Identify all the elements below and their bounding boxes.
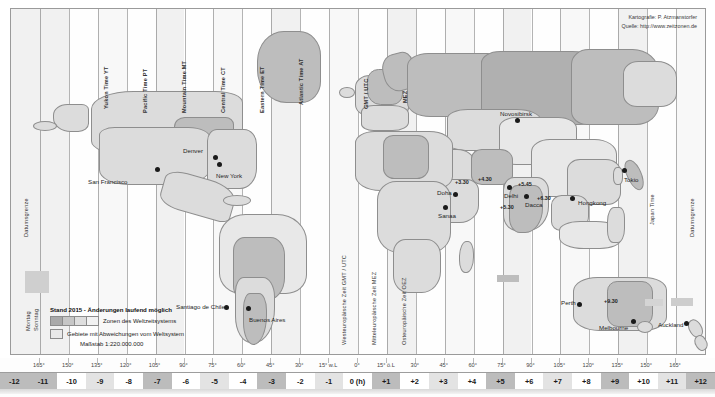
world-timezone-map: Yukon Time YTPacific Time PTMountain Tim…: [0, 0, 715, 397]
city-dot: [453, 192, 458, 197]
city-label: Buenos Aires: [249, 316, 285, 323]
hour-offset-cell[interactable]: +12: [686, 373, 715, 390]
city-label: New York: [216, 172, 242, 179]
monday-label: Montag: [25, 311, 31, 331]
timezone-band: [11, 9, 40, 354]
degree-label: 165°: [24, 358, 53, 372]
zone-label-mid: Mitteleuropäische Zeit MEZ: [371, 272, 377, 345]
map-frame: Yukon Time YTPacific Time PTMountain Tim…: [10, 8, 706, 355]
degree-label: 90°: [516, 358, 545, 372]
hour-offset-cell[interactable]: -6: [172, 373, 202, 390]
degree-label: 135°: [82, 358, 111, 372]
hour-offset-cell[interactable]: +9: [601, 373, 631, 390]
zone-label-top: MEZ: [402, 91, 408, 103]
city-label: Melbourne: [599, 324, 628, 331]
legend-swatch-zones: [50, 316, 99, 326]
hour-offset-cell[interactable]: -3: [257, 373, 287, 390]
hour-offset-cell[interactable]: -12: [0, 373, 30, 390]
city-dot: [507, 185, 512, 190]
hour-offset-cell[interactable]: -5: [200, 373, 230, 390]
hour-offset-cell[interactable]: -2: [286, 373, 316, 390]
legend-swatch-deviations: [50, 329, 63, 339]
legend: Stand 2015 - Änderungen laufend möglich …: [50, 306, 235, 347]
zone-label-right: Japan Time: [649, 194, 655, 225]
hour-offset-cell[interactable]: -1: [315, 373, 345, 390]
degree-label: 60°: [458, 358, 487, 372]
hour-offset-cell[interactable]: -9: [86, 373, 116, 390]
hour-offset-cell[interactable]: +7: [543, 373, 573, 390]
city-dot: [246, 306, 251, 311]
timezone-band: [40, 9, 69, 354]
city-label: Hongkong: [578, 199, 606, 206]
city-dot: [217, 162, 222, 167]
legend-label-zones: Zonen des Weltzeitsystems: [103, 318, 176, 324]
zone-label-top: GMT / UTC: [363, 79, 369, 109]
zone-label-top: Pacific Time PT: [142, 69, 148, 113]
city-label: Doha: [437, 189, 452, 196]
zone-label-top: Eastern Time ET: [259, 66, 265, 113]
city-dot: [622, 168, 627, 173]
hour-offset-cell[interactable]: +3: [429, 373, 459, 390]
degree-label: 165°: [661, 358, 690, 372]
degree-label: 90°: [169, 358, 198, 372]
degree-label: 120°: [574, 358, 603, 372]
hour-offset-cell[interactable]: +5: [486, 373, 516, 390]
city-dot: [577, 302, 582, 307]
hour-offset-cell[interactable]: +4: [458, 373, 488, 390]
degree-label: 150°: [53, 358, 82, 372]
degree-label: 60°: [227, 358, 256, 372]
degree-label: 135°: [603, 358, 632, 372]
hour-offset-cell[interactable]: +8: [572, 373, 602, 390]
city-label: Tokio: [624, 176, 638, 183]
city-dot: [684, 321, 689, 326]
offset-label: +5.45: [518, 181, 532, 187]
city-label: San Francisco: [88, 178, 128, 185]
city-label: Delhi: [504, 192, 518, 199]
credit-cartography: Kartografie: P. Atzmanstorfer: [628, 14, 697, 20]
hour-offset-cell[interactable]: +11: [658, 373, 688, 390]
zone-label-top: Yukon Time YT: [103, 67, 109, 110]
hour-offset-cell[interactable]: -10: [57, 373, 87, 390]
hour-offset-cell[interactable]: +1: [372, 373, 402, 390]
zone-label-top: Mountain Time MT: [181, 61, 187, 113]
hour-offset-cell[interactable]: -7: [143, 373, 173, 390]
city-label: Dacca: [525, 201, 543, 208]
legend-row-zones: Zonen des Weltzeitsystems: [50, 316, 235, 326]
hour-offset-cell[interactable]: -8: [114, 373, 144, 390]
hour-offset-cell[interactable]: +2: [400, 373, 430, 390]
hour-offset-cell[interactable]: 0 (h): [343, 373, 373, 390]
dateline-label-right: Datumsgrenze: [689, 198, 695, 237]
offset-label: +3.30: [455, 179, 469, 185]
city-dot: [570, 196, 575, 201]
city-label: Denver: [183, 147, 203, 154]
zone-label-top: Central Time CT: [220, 67, 226, 113]
degree-label: 150°: [632, 358, 661, 372]
offset-label: +9.30: [604, 298, 618, 304]
hour-offset-cell[interactable]: +6: [515, 373, 545, 390]
degree-label: 45°: [429, 358, 458, 372]
city-dot: [515, 118, 520, 123]
city-dot: [155, 167, 160, 172]
zone-label-mid: Osteuropäische Zeit OEZ: [401, 277, 407, 345]
offset-label: +6.30: [537, 195, 551, 201]
degree-label: 15° ö.L: [371, 358, 400, 372]
legend-label-deviations: Gebiete mit Abweichungen vom Weltsystem: [67, 331, 184, 337]
city-label: Auckland: [658, 321, 683, 328]
hour-offset-cell[interactable]: -4: [229, 373, 259, 390]
city-dot: [524, 194, 529, 199]
legend-heading: Stand 2015 - Änderungen laufend möglich: [50, 306, 235, 313]
dateline-label-left: Datumsgrenze: [23, 198, 29, 237]
offset-label: +5.30: [500, 204, 514, 210]
offset-label: +4.30: [478, 176, 492, 182]
city-label: Perth: [561, 299, 576, 306]
hour-offset-cell[interactable]: -11: [29, 373, 59, 390]
degree-label: 45°: [256, 358, 285, 372]
zone-label-mid: Westeuropäische Zeit GMT / UTC: [341, 255, 347, 345]
credit-source: Quelle: http://www.zeitzonen.de: [621, 23, 697, 29]
map-plate: Yukon Time YTPacific Time PTMountain Tim…: [0, 0, 715, 358]
bottom-shadow: [0, 389, 715, 394]
city-dot: [631, 319, 636, 324]
city-label: Novosibirsk: [500, 110, 532, 117]
degree-label: 120°: [111, 358, 140, 372]
hour-offset-cell[interactable]: +10: [629, 373, 659, 390]
